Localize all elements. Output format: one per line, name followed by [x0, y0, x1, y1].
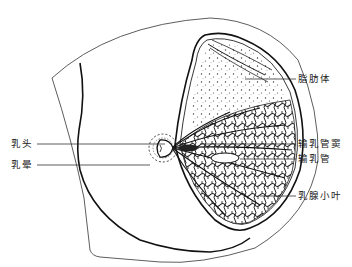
label-nipple: 乳头 — [11, 138, 33, 149]
label-fat-body: 脂肪体 — [298, 73, 331, 84]
label-areola: 乳晕 — [11, 159, 33, 170]
label-lactiferous-sinus: 输乳管窦 — [298, 138, 342, 149]
label-lactiferous-duct: 输乳管 — [298, 153, 331, 164]
gland-section — [172, 33, 303, 230]
breast-anatomy-diagram — [0, 0, 352, 267]
nipple-areola — [149, 134, 177, 162]
label-mammary-lobule: 乳腺小叶 — [298, 190, 342, 201]
